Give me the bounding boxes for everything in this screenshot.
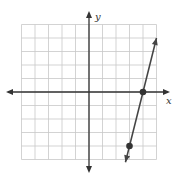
y-axis-bottom-arrow-icon — [86, 166, 92, 173]
axes: x y — [6, 11, 172, 173]
y-axis-label: y — [94, 11, 101, 22]
coordinate-plane: x y — [0, 0, 181, 181]
data-point — [140, 89, 147, 96]
data-point — [126, 143, 133, 150]
y-axis-top-arrow-icon — [86, 11, 92, 18]
x-axis-label: x — [166, 95, 172, 106]
x-axis-left-arrow-icon — [6, 89, 13, 95]
